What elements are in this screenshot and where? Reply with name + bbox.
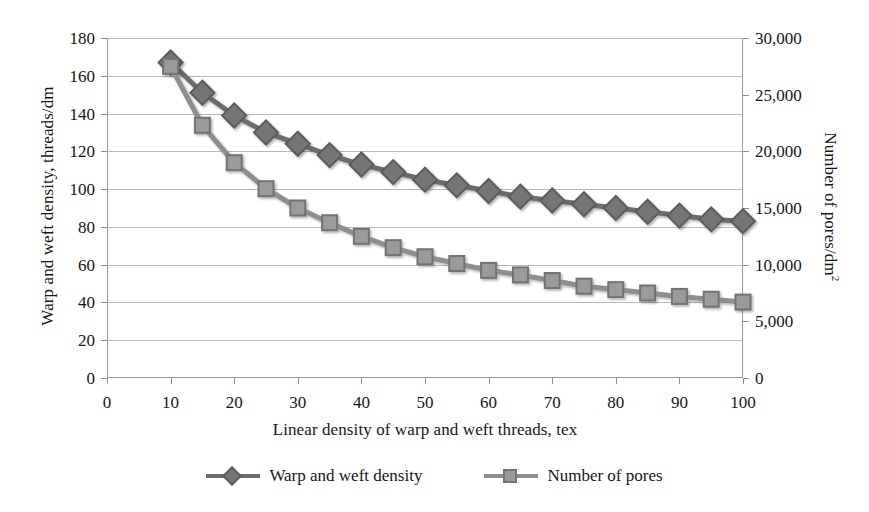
x-axis-ticklabel: 0	[77, 394, 137, 411]
x-axis-ticklabel: 100	[713, 394, 773, 411]
y-axis-right-ticklabel: 25,000	[755, 87, 835, 104]
chart-figure: Warp and weft density, threads/dm Number…	[0, 0, 869, 512]
data-point-marker	[477, 179, 501, 203]
data-point-marker	[604, 196, 628, 220]
y-axis-left-ticklabel: 120	[35, 143, 95, 160]
data-point-marker	[699, 207, 723, 231]
series-1	[159, 51, 755, 234]
data-point-marker	[449, 256, 464, 271]
x-axis-tickmark	[107, 378, 108, 384]
data-point-marker	[413, 168, 437, 192]
x-axis-tickmark	[234, 378, 235, 384]
data-point-marker	[636, 200, 660, 224]
x-axis-tickmark	[552, 378, 553, 384]
y-axis-right-tickmark	[743, 321, 749, 322]
y-axis-right-tickmark	[743, 38, 749, 39]
data-point-marker	[513, 267, 528, 282]
legend-item-1[interactable]: Warp and weft density	[206, 466, 422, 486]
x-axis-ticklabel: 40	[331, 394, 391, 411]
y-axis-left-ticklabel: 60	[35, 257, 95, 274]
y-axis-right-tickmark	[743, 95, 749, 96]
y-axis-left-ticklabel: 20	[35, 332, 95, 349]
x-axis-ticklabel: 60	[459, 394, 519, 411]
data-point-marker	[418, 249, 433, 264]
x-axis-tickmark	[298, 378, 299, 384]
legend-marker	[503, 469, 517, 483]
x-axis-tickmark	[489, 378, 490, 384]
data-point-marker	[731, 209, 755, 233]
data-point-marker	[354, 229, 369, 244]
data-point-marker	[254, 120, 278, 144]
y-axis-right-tickmark	[743, 265, 749, 266]
data-point-marker	[481, 263, 496, 278]
data-point-marker	[577, 279, 592, 294]
data-point-marker	[540, 188, 564, 212]
legend-label: Warp and weft density	[269, 466, 422, 486]
data-point-marker	[381, 160, 405, 184]
legend-label: Number of pores	[547, 466, 662, 486]
y-axis-right-ticklabel: 5,000	[755, 313, 835, 330]
data-point-marker	[704, 292, 719, 307]
y-axis-left-ticklabel: 40	[35, 294, 95, 311]
x-axis-ticklabel: 30	[268, 394, 328, 411]
y-axis-left-ticklabel: 0	[35, 370, 95, 387]
x-axis-tickmark	[679, 378, 680, 384]
data-point-marker	[227, 155, 242, 170]
x-axis-tickmark	[171, 378, 172, 384]
data-point-marker	[508, 185, 532, 209]
data-point-marker	[318, 143, 342, 167]
data-point-marker	[736, 295, 751, 310]
y-axis-right-ticklabel: 0	[755, 370, 835, 387]
data-point-marker	[195, 118, 210, 133]
x-axis-tickmark	[743, 378, 744, 384]
y-axis-left-ticklabel: 80	[35, 219, 95, 236]
data-point-marker	[386, 240, 401, 255]
x-axis-ticklabel: 80	[586, 394, 646, 411]
x-axis-ticklabel: 70	[522, 394, 582, 411]
y-axis-left-ticklabel: 160	[35, 68, 95, 85]
x-axis-tickmark	[361, 378, 362, 384]
data-point-marker	[608, 282, 623, 297]
legend-swatch-square-icon	[484, 467, 538, 485]
y-axis-left-ticklabel: 140	[35, 106, 95, 123]
y-axis-right-tickmark	[743, 151, 749, 152]
data-point-marker	[290, 201, 305, 216]
y-axis-right-ticklabel: 15,000	[755, 200, 835, 217]
x-axis-tickmark	[616, 378, 617, 384]
x-axis-ticklabel: 90	[649, 394, 709, 411]
data-point-marker	[259, 181, 274, 196]
data-point-marker	[572, 192, 596, 216]
data-point-marker	[322, 215, 337, 230]
data-point-marker	[349, 153, 373, 177]
x-axis-title: Linear density of warp and weft threads,…	[107, 420, 743, 440]
data-point-marker	[445, 173, 469, 197]
legend-swatch-diamond-icon	[206, 467, 260, 485]
chart-legend: Warp and weft densityNumber of pores	[0, 466, 869, 486]
x-axis-ticklabel: 20	[204, 394, 264, 411]
y-axis-left-ticklabel: 100	[35, 181, 95, 198]
plot-area	[107, 38, 743, 378]
x-axis-tickmark	[425, 378, 426, 384]
data-point-marker	[640, 286, 655, 301]
data-point-marker	[667, 204, 691, 228]
y-axis-right-ticklabel: 20,000	[755, 143, 835, 160]
data-point-marker	[672, 289, 687, 304]
y-axis-right-ticklabel: 30,000	[755, 30, 835, 47]
data-point-marker	[545, 273, 560, 288]
y-axis-left-ticklabel: 180	[35, 30, 95, 47]
data-point-marker	[286, 132, 310, 156]
y-axis-right-ticklabel: 10,000	[755, 257, 835, 274]
data-point-marker	[163, 59, 178, 74]
legend-marker	[222, 466, 242, 486]
x-axis-ticklabel: 50	[395, 394, 455, 411]
superscript-two: 2	[830, 276, 842, 282]
legend-item-2[interactable]: Number of pores	[484, 466, 662, 486]
data-series-layer	[107, 38, 743, 378]
x-axis-ticklabel: 10	[141, 394, 201, 411]
